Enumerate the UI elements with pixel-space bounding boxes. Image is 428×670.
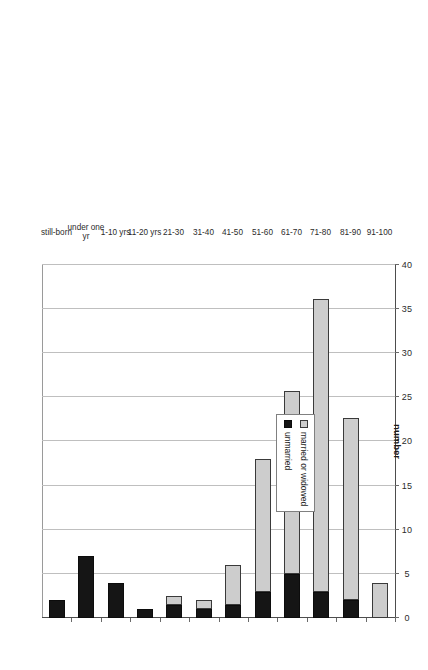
- bar-group[interactable]: [225, 265, 241, 618]
- category-axis-tick: [160, 618, 161, 622]
- category-axis-tick: [189, 618, 190, 622]
- category-axis-tick: [130, 618, 131, 622]
- chart-legend: married or widowed unmarried: [276, 414, 315, 512]
- category-axis-tick: [219, 618, 220, 622]
- chart-figure: 0510152025303540 number still-bornunder …: [0, 0, 428, 670]
- bar-segment-unmarried[interactable]: [108, 583, 124, 618]
- bar-segment-married-or-widowed[interactable]: [225, 565, 241, 605]
- legend-item-married-or-widowed[interactable]: married or widowed: [297, 420, 311, 506]
- bar-segment-unmarried[interactable]: [196, 609, 212, 618]
- legend-label-unmarried: unmarried: [283, 432, 293, 470]
- bar-group[interactable]: [313, 265, 329, 618]
- bar-segment-unmarried[interactable]: [284, 574, 300, 618]
- bar-segment-unmarried[interactable]: [137, 609, 153, 618]
- bar-group[interactable]: [343, 265, 359, 618]
- bar-group[interactable]: [108, 265, 124, 618]
- category-axis-tick: [336, 618, 337, 622]
- category-label-91-100: 91-100: [352, 228, 408, 237]
- bar-segment-unmarried[interactable]: [313, 592, 329, 618]
- category-axis-tick: [366, 618, 367, 622]
- bar-segment-unmarried[interactable]: [225, 605, 241, 618]
- bar-segment-married-or-widowed[interactable]: [343, 418, 359, 601]
- bar-group[interactable]: [255, 265, 271, 618]
- category-axis-tick: [101, 618, 102, 622]
- legend-swatch-married-icon: [300, 420, 308, 428]
- bar-segment-unmarried[interactable]: [78, 556, 94, 618]
- bar-segment-unmarried[interactable]: [343, 600, 359, 618]
- bar-segment-married-or-widowed[interactable]: [196, 600, 212, 609]
- chart-frame: 0510152025303540 number still-bornunder …: [0, 0, 428, 670]
- category-axis-tick: [395, 618, 396, 622]
- bar-segment-unmarried[interactable]: [166, 605, 182, 618]
- legend-label-married-or-widowed: married or widowed: [299, 432, 309, 506]
- bar-group[interactable]: [137, 265, 153, 618]
- bar-segment-married-or-widowed[interactable]: [255, 459, 271, 591]
- bar-group[interactable]: [49, 265, 65, 618]
- bar-group[interactable]: [166, 265, 182, 618]
- legend-item-unmarried[interactable]: unmarried: [281, 420, 295, 470]
- bar-group[interactable]: [372, 265, 388, 618]
- bar-segment-unmarried[interactable]: [49, 600, 65, 618]
- legend-swatch-unmarried-icon: [284, 420, 292, 428]
- bar-group[interactable]: [78, 265, 94, 618]
- category-axis-tick: [277, 618, 278, 622]
- bar-segment-married-or-widowed[interactable]: [313, 299, 329, 592]
- bar-segment-married-or-widowed[interactable]: [166, 596, 182, 605]
- bar-segment-unmarried[interactable]: [255, 592, 271, 618]
- bar-segment-married-or-widowed[interactable]: [372, 583, 388, 618]
- bar-group[interactable]: [196, 265, 212, 618]
- category-axis-tick: [71, 618, 72, 622]
- category-axis-tick: [248, 618, 249, 622]
- category-axis-tick: [307, 618, 308, 622]
- value-axis-title: number: [392, 265, 403, 618]
